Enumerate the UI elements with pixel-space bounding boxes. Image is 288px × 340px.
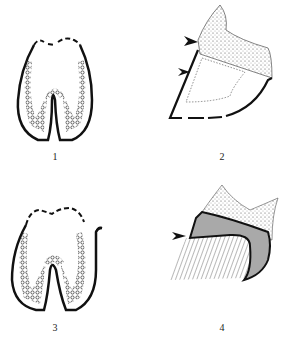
diagram-canvas — [0, 0, 288, 340]
panel-label-1: 1 — [45, 151, 65, 162]
panel-3-crown — [26, 208, 84, 225]
panel-label-3: 3 — [45, 322, 65, 333]
panel-1-crown — [34, 38, 80, 45]
panel-1-papillae-left — [25, 60, 48, 132]
panel-2-coronary-band — [198, 5, 272, 78]
panel-label-2: 2 — [212, 151, 232, 162]
panel-3-papillae-left — [19, 232, 46, 304]
panel-2-arrowhead-upper — [184, 36, 198, 46]
panel-1-papillae-right — [62, 60, 85, 132]
panel-4-arrowhead — [172, 232, 186, 240]
panel-label-4: 4 — [212, 322, 232, 333]
panel-3-tooth — [12, 208, 102, 310]
panel-1-tooth — [18, 38, 92, 140]
panel-4-hatched-region — [168, 235, 250, 280]
panel-3-papillae-right — [60, 232, 86, 304]
panel-2-hoof — [170, 5, 272, 118]
panel-4-hoof — [168, 185, 278, 280]
